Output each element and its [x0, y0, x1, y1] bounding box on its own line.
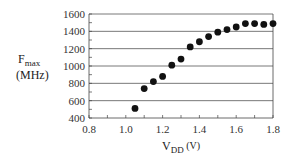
data-point — [205, 33, 212, 40]
y-tick-label: 800 — [69, 77, 86, 89]
x-tick-label: 1.6 — [229, 123, 243, 135]
y-tick-label: 1400 — [63, 25, 86, 37]
y-axis-title-main: Fmax — [18, 52, 41, 68]
y-tick-label: 1200 — [63, 43, 86, 55]
data-point — [187, 44, 194, 51]
x-tick-label: 1.2 — [156, 123, 170, 135]
data-point — [196, 38, 203, 45]
data-point — [159, 73, 166, 80]
data-point — [132, 105, 139, 112]
data-point — [178, 56, 185, 63]
x-tick-label: 1.0 — [119, 123, 133, 135]
y-axis-title-unit: (MHz) — [16, 68, 49, 82]
chart: 4006008001000120014001600 0.81.01.21.41.… — [0, 0, 297, 167]
data-point — [214, 29, 221, 36]
x-axis-title-text: VDD (V) — [162, 139, 200, 155]
data-point — [233, 24, 240, 31]
y-tick-label: 600 — [69, 95, 86, 107]
y-axis-title: Fmax (MHz) — [16, 52, 49, 82]
data-point — [242, 20, 249, 27]
x-tick-label: 0.8 — [82, 123, 96, 135]
y-tick-label: 1000 — [63, 60, 86, 72]
x-tick-label: 1.4 — [193, 123, 207, 135]
x-axis-title: VDD (V) — [162, 139, 200, 155]
x-tick-label: 1.8 — [266, 123, 280, 135]
data-point — [224, 26, 231, 33]
data-point — [150, 78, 157, 85]
y-tick-label: 1600 — [63, 8, 86, 20]
data-point — [141, 85, 148, 92]
data-point — [168, 62, 175, 69]
data-point — [251, 20, 258, 27]
data-point — [270, 20, 277, 27]
data-point — [260, 21, 267, 28]
y-axis-ticks: 4006008001000120014001600 — [63, 8, 92, 124]
